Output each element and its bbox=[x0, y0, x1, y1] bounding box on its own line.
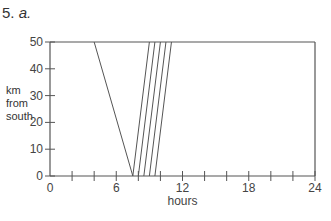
y-tick-label: 20 bbox=[30, 115, 44, 129]
x-tick-label: 0 bbox=[47, 181, 54, 195]
y-tick-label: 10 bbox=[30, 142, 44, 156]
x-tick-label: 6 bbox=[113, 181, 120, 195]
y-tick-label: 50 bbox=[30, 35, 44, 49]
x-tick-label: 24 bbox=[308, 181, 322, 195]
y-tick-label: 30 bbox=[30, 89, 44, 103]
x-axis-label: hours bbox=[167, 194, 197, 208]
x-tick-label: 12 bbox=[176, 181, 190, 195]
chart: 0102030405006121824hours bbox=[0, 0, 331, 221]
y-tick-label: 0 bbox=[36, 169, 43, 183]
y-tick-label: 40 bbox=[30, 62, 44, 76]
x-tick-label: 18 bbox=[242, 181, 256, 195]
series-line-southbound bbox=[94, 42, 133, 176]
